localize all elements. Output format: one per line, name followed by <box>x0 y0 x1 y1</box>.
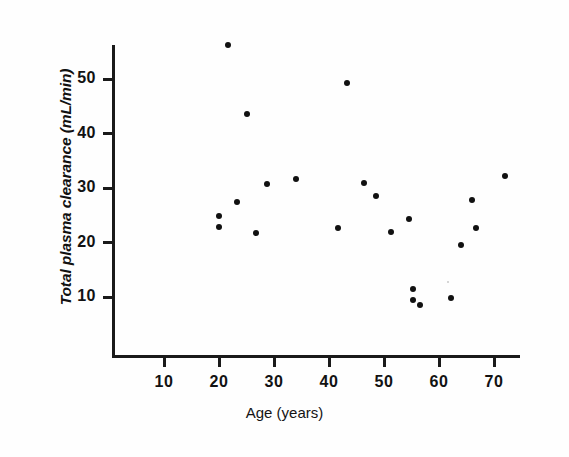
data-point <box>417 302 423 308</box>
data-point <box>410 297 416 303</box>
data-point <box>373 193 379 199</box>
data-point <box>335 225 341 231</box>
data-point <box>410 286 416 292</box>
data-point <box>458 242 464 248</box>
data-point <box>264 181 270 187</box>
data-point <box>244 111 250 117</box>
data-point <box>473 225 479 231</box>
scan-speck <box>447 281 449 283</box>
data-point <box>469 197 475 203</box>
data-point <box>216 224 222 230</box>
data-point <box>234 199 240 205</box>
data-point <box>225 42 231 48</box>
data-point <box>448 295 454 301</box>
data-point <box>344 80 350 86</box>
data-point <box>388 229 394 235</box>
data-point <box>406 216 412 222</box>
data-points-layer <box>0 0 569 457</box>
data-point <box>216 213 222 219</box>
data-point <box>293 176 299 182</box>
data-point <box>502 173 508 179</box>
data-point <box>253 230 259 236</box>
scatter-plot-figure: Total plasma clearance (mL/min) Age (yea… <box>0 0 569 457</box>
data-point <box>361 180 367 186</box>
